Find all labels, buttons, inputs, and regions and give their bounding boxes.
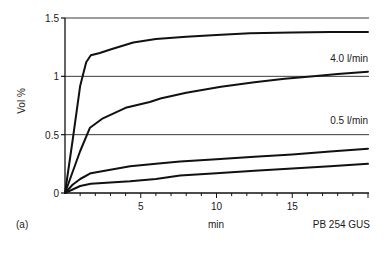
y-tick-label: 1 [53, 71, 59, 82]
y-axis-label: Vol % [16, 88, 27, 114]
series-line-4 [65, 164, 368, 193]
series-label-0-5-lpm: 0.5 l/min [330, 115, 368, 126]
x-axis-label: min [208, 219, 224, 230]
x-tick-label: 5 [138, 201, 144, 212]
y-tick-label: 1.5 [45, 13, 59, 24]
y-tick-label: 0.5 [45, 130, 59, 141]
y-ticks: 00.511.5 [45, 13, 65, 199]
figure-code: PB 254 GUS [313, 219, 371, 230]
series-line-3 [65, 149, 368, 193]
x-ticks: 51015 [80, 193, 368, 212]
series-lines [65, 32, 368, 193]
y-tick-label: 0 [53, 188, 59, 199]
series-label-4-0-lpm: 4.0 l/min [330, 53, 368, 64]
x-tick-label: 15 [287, 201, 299, 212]
x-tick-label: 10 [211, 201, 223, 212]
series-line-2 [65, 72, 368, 193]
chart: 51015 00.511.5 Vol % min (a) PB 254 GUS … [0, 0, 387, 253]
panel-label: (a) [16, 219, 28, 230]
